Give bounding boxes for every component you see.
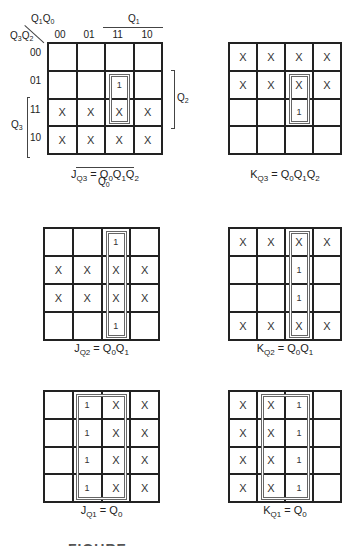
kmap-cell: X bbox=[102, 474, 131, 502]
kmap-cell bbox=[134, 71, 163, 99]
kmap-cell: X bbox=[77, 99, 106, 127]
row-code: 11 bbox=[30, 104, 40, 115]
kmap-kq3: XXXXXXXX1 bbox=[228, 42, 342, 155]
kmap-cell: X bbox=[102, 391, 131, 419]
kmap-cell: X bbox=[257, 43, 285, 71]
kmap-cell bbox=[313, 474, 341, 502]
kmap-cell bbox=[48, 43, 77, 71]
q2-span-bar bbox=[174, 70, 175, 129]
kmap-cell: X bbox=[73, 256, 102, 284]
kmap-cell: X bbox=[130, 391, 159, 419]
kmap-cell: X bbox=[257, 312, 285, 340]
kmap-cell: X bbox=[257, 419, 285, 447]
corner-col-vars: Q1Q0 bbox=[31, 13, 54, 25]
kmap-cell: 1 bbox=[73, 419, 102, 447]
kmap-cell: 1 bbox=[73, 447, 102, 475]
kmap-cell bbox=[44, 419, 73, 447]
kmap-cell: X bbox=[130, 419, 159, 447]
kmap-cell: X bbox=[229, 312, 257, 340]
kmap-cell: 1 bbox=[105, 71, 134, 99]
kmap-cell: X bbox=[134, 99, 163, 127]
q3-span-tick bbox=[27, 157, 30, 158]
kmap-cell: X bbox=[257, 474, 285, 502]
equation-jq2: JQ2 = Q0Q1 bbox=[33, 342, 170, 357]
kmap-cell: X bbox=[102, 256, 131, 284]
kmap-cell bbox=[257, 99, 285, 127]
kmap-cell: X bbox=[257, 391, 285, 419]
kmap-cell: X bbox=[48, 99, 77, 127]
kmap-cell: 1 bbox=[285, 447, 313, 475]
kmap-cell: X bbox=[105, 126, 134, 154]
kmap-kq1: XX1XX1XX1XX1 bbox=[228, 390, 342, 503]
kmap-cell: X bbox=[130, 284, 159, 312]
kmap-cell bbox=[229, 256, 257, 284]
col-code: 00 bbox=[55, 29, 66, 40]
kmap-cell bbox=[285, 126, 313, 154]
kmap-cell: X bbox=[130, 474, 159, 502]
kmap-cell: X bbox=[229, 71, 257, 99]
kmap-cell: X bbox=[257, 228, 285, 256]
q3-span-tick bbox=[27, 97, 30, 98]
kmap-cell: X bbox=[229, 474, 257, 502]
kmap-cell: X bbox=[229, 419, 257, 447]
kmap-cell: 1 bbox=[285, 256, 313, 284]
kmap-cell: X bbox=[229, 43, 257, 71]
kmap-cell: X bbox=[48, 126, 77, 154]
kmap-cell: X bbox=[285, 43, 313, 71]
figure-caption-partial: FIGURE bbox=[68, 539, 127, 546]
q1-span-label: Q1 bbox=[128, 13, 140, 25]
kmap-cell: X bbox=[73, 284, 102, 312]
kmap-cell: 1 bbox=[285, 391, 313, 419]
kmap-cell: X bbox=[77, 126, 106, 154]
kmap-cell: X bbox=[313, 71, 341, 99]
kmap-cell bbox=[105, 43, 134, 71]
kmap-cell: 1 bbox=[285, 474, 313, 502]
kmap-cell bbox=[77, 71, 106, 99]
kmap-cell: 1 bbox=[102, 312, 131, 340]
q3-span-bar bbox=[27, 97, 28, 158]
kmap-cell: 1 bbox=[73, 391, 102, 419]
kmap-cell: X bbox=[102, 419, 131, 447]
col-code: 11 bbox=[113, 29, 123, 40]
kmap-cell bbox=[44, 391, 73, 419]
kmap-cell: X bbox=[257, 71, 285, 99]
kmap-cell: X bbox=[105, 99, 134, 127]
kmap-cell bbox=[44, 228, 73, 256]
col-code: 01 bbox=[84, 29, 95, 40]
equation-kq1: KQ1 = Q0 bbox=[218, 504, 352, 519]
kmap-cell bbox=[229, 99, 257, 127]
kmap-cell bbox=[130, 312, 159, 340]
kmap-cell: X bbox=[130, 256, 159, 284]
corner-row-vars: Q3Q2 bbox=[10, 30, 33, 42]
kmap-cell bbox=[229, 126, 257, 154]
equation-kq3: KQ3 = Q0Q1Q2 bbox=[218, 168, 352, 183]
kmap-cell: X bbox=[285, 71, 313, 99]
kmap-jq1: 1XX1XX1XX1XX bbox=[43, 390, 160, 503]
equation-jq1: JQ1 = Q0 bbox=[33, 504, 170, 519]
kmap-cell: X bbox=[313, 228, 341, 256]
kmap-cell: X bbox=[257, 447, 285, 475]
q2-span-tick bbox=[171, 70, 174, 71]
q0-span-bar bbox=[76, 167, 134, 168]
kmap-cell: 1 bbox=[73, 474, 102, 502]
kmap-cell: X bbox=[313, 312, 341, 340]
col-code: 10 bbox=[142, 29, 153, 40]
q2-span-tick bbox=[171, 128, 174, 129]
kmap-cell: X bbox=[44, 256, 73, 284]
kmap-cell bbox=[313, 256, 341, 284]
kmap-cell: X bbox=[285, 312, 313, 340]
kmap-jq3: 1XXXXXXXX bbox=[47, 42, 163, 155]
kmap-cell bbox=[313, 126, 341, 154]
row-code: 10 bbox=[30, 132, 41, 143]
kmap-kq2: XXXX11XXXX bbox=[228, 227, 342, 341]
kmap-cell: X bbox=[44, 284, 73, 312]
kmap-cell bbox=[48, 71, 77, 99]
equation-kq2: KQ2 = Q0Q1 bbox=[218, 342, 352, 357]
kmap-cell bbox=[77, 43, 106, 71]
kmap-cell: X bbox=[229, 228, 257, 256]
kmap-cell bbox=[73, 228, 102, 256]
kmap-cell bbox=[130, 228, 159, 256]
kmap-cell bbox=[134, 43, 163, 71]
kmap-cell: X bbox=[130, 447, 159, 475]
kmap-cell bbox=[257, 284, 285, 312]
